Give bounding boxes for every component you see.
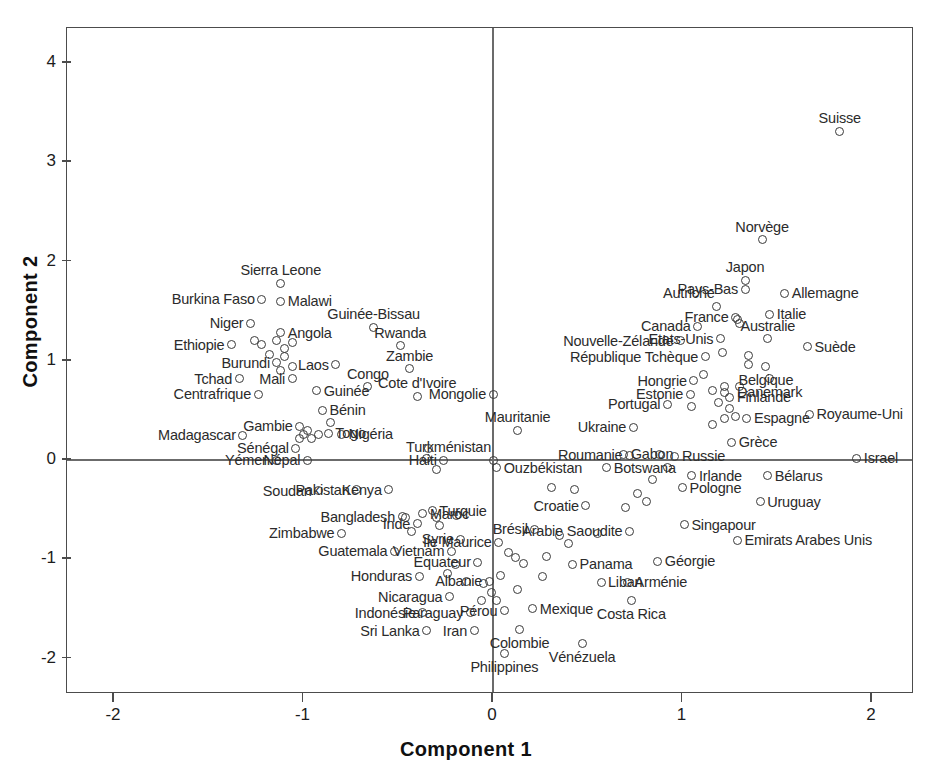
data-point-marker <box>720 388 729 397</box>
data-point-marker <box>731 412 740 421</box>
data-point-marker <box>413 519 422 528</box>
point-label: Niger <box>210 316 244 331</box>
data-point-marker <box>303 426 312 435</box>
data-point-marker <box>405 364 414 373</box>
data-point-marker <box>629 423 638 432</box>
point-label: Sénégal <box>237 441 289 456</box>
point-label: Pologne <box>690 481 742 496</box>
data-point-marker <box>708 386 717 395</box>
point-label: Madagascar <box>158 428 236 443</box>
data-point-marker <box>318 406 327 415</box>
point-label: Nicaragua <box>378 590 442 605</box>
data-point-marker <box>564 539 573 548</box>
data-point-marker <box>741 285 750 294</box>
data-point-marker <box>257 295 266 304</box>
data-point-marker <box>597 578 606 587</box>
data-point-marker <box>515 625 524 634</box>
data-point-marker <box>570 485 579 494</box>
point-label: Japon <box>726 260 765 275</box>
y-tick-mark <box>62 160 71 162</box>
point-label: Guinée-Bissau <box>327 307 420 322</box>
data-point-marker <box>547 483 556 492</box>
x-tick-label: 1 <box>677 705 686 725</box>
data-point-marker <box>494 538 503 547</box>
point-label: Ouzbékistan <box>504 461 582 476</box>
y-tick-mark <box>62 61 71 63</box>
data-point-marker <box>337 529 346 538</box>
data-point-marker <box>528 604 537 613</box>
data-point-marker <box>678 483 687 492</box>
data-point-marker <box>489 390 498 399</box>
point-label: Malawi <box>288 294 332 309</box>
data-point-marker <box>733 536 742 545</box>
point-label: Sri Lanka <box>360 623 419 638</box>
point-label: Guinée <box>324 383 370 398</box>
x-tick-mark <box>112 693 114 702</box>
point-label: Arabie Saoudite <box>522 524 622 539</box>
data-point-marker <box>235 374 244 383</box>
y-tick-label: 0 <box>47 449 56 469</box>
point-label: Portugal <box>608 397 660 412</box>
point-label: Suède <box>815 340 856 355</box>
point-label: Géorgie <box>665 554 715 569</box>
data-point-marker <box>439 456 448 465</box>
y-axis-title: Component 2 <box>19 172 42 472</box>
point-label: Congo <box>347 366 389 381</box>
data-point-marker <box>720 414 729 423</box>
data-point-marker <box>542 552 551 561</box>
data-point-marker <box>511 553 520 562</box>
data-point-marker <box>496 571 505 580</box>
point-label: Allemagne <box>792 286 859 301</box>
data-point-marker <box>513 585 522 594</box>
data-point-marker <box>727 438 736 447</box>
point-label: Royaume-Uni <box>816 407 902 422</box>
data-point-marker <box>716 334 725 343</box>
point-label: Rwanda <box>374 326 426 341</box>
data-point-marker <box>489 456 498 465</box>
data-point-marker <box>288 374 297 383</box>
data-point-marker <box>578 639 587 648</box>
data-point-marker <box>761 362 770 371</box>
data-point-marker <box>744 351 753 360</box>
data-point-marker <box>538 572 547 581</box>
data-point-marker <box>653 557 662 566</box>
point-label: Soudan <box>263 484 312 499</box>
data-point-marker <box>280 352 289 361</box>
point-label: Zambie <box>386 348 433 363</box>
x-tick-label: -1 <box>295 705 310 725</box>
point-label: Botswana <box>614 461 676 476</box>
point-label: Haiti <box>409 453 437 468</box>
data-point-marker <box>276 297 285 306</box>
point-label: Gambie <box>243 419 293 434</box>
data-point-marker <box>621 503 630 512</box>
data-point-marker <box>473 558 482 567</box>
data-point-marker <box>780 289 789 298</box>
data-point-marker <box>602 463 611 472</box>
y-tick-mark <box>62 557 71 559</box>
point-label: Suisse <box>819 111 861 126</box>
data-point-marker <box>689 376 698 385</box>
point-label: Indonésie <box>355 606 416 621</box>
point-label: Syrie <box>422 532 454 547</box>
point-label: Bélarus <box>775 469 823 484</box>
data-point-marker <box>687 402 696 411</box>
point-label: Panama <box>580 557 633 572</box>
data-point-marker <box>415 572 424 581</box>
point-label: Nouvelle-Zélande <box>563 334 673 349</box>
y-tick-mark <box>62 359 71 361</box>
data-point-marker <box>312 386 321 395</box>
data-point-marker <box>680 520 689 529</box>
data-point-marker <box>331 360 340 369</box>
point-label: Croatie <box>534 498 579 513</box>
data-point-marker <box>756 497 765 506</box>
x-tick-label: 0 <box>487 705 496 725</box>
y-tick-label: -2 <box>41 648 56 668</box>
point-label: Bangladesh <box>320 509 395 524</box>
data-point-marker <box>701 352 710 361</box>
point-label: Mongolie <box>429 387 486 402</box>
point-label: Philippines <box>470 659 538 674</box>
data-point-marker <box>227 340 236 349</box>
data-point-marker <box>699 370 708 379</box>
data-point-marker <box>568 560 577 569</box>
data-point-marker <box>642 497 651 506</box>
